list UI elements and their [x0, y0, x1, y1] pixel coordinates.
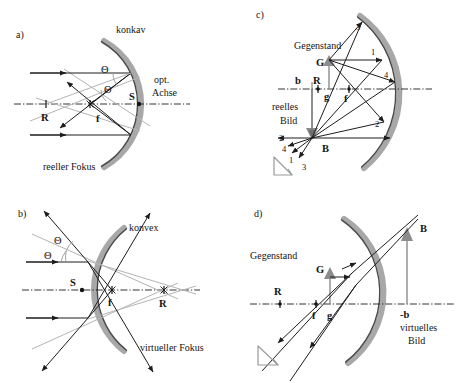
panel-d-dist-g: g: [327, 310, 333, 321]
panel-c-ray-num-mirror-0: 3: [356, 22, 360, 32]
panel-a-axis-label-2: Achse: [152, 87, 178, 98]
center-point-R: [316, 87, 320, 91]
panel-a-point-f: f: [96, 113, 100, 124]
panel-c-ray-num-mirror-3: 2: [375, 119, 379, 129]
focus-point-f: [314, 302, 318, 306]
panel-c-ray-num-image-1: 4: [282, 144, 287, 154]
panel-c-ray-num-image-0: 2: [279, 133, 283, 143]
focus-point-f: [347, 87, 351, 91]
vertex-point-S: [80, 288, 84, 292]
optics-figure: a) konkav opt. Achse reeller Fokus S f R…: [0, 0, 463, 383]
mirror-arc-concave: [342, 219, 384, 363]
panel-b-tag: b): [18, 208, 26, 220]
reflected-rays: [60, 73, 131, 135]
eye-icon: [258, 346, 278, 365]
panel-d-image-label-1: virtuelles: [400, 322, 437, 333]
panel-c-dist-b: b: [295, 75, 301, 86]
panel-c-point-R: R: [313, 75, 321, 86]
panel-b-angle-incident: Θ: [54, 235, 62, 246]
panel-c-ray-num-image-2: 1: [289, 155, 293, 165]
panel-c-image-label-1: reelles: [272, 101, 298, 112]
panel-c-ray-num-mirror-1: 1: [371, 47, 375, 57]
panel-d-point-G: G: [316, 264, 324, 275]
panel-a-tag: a): [16, 29, 24, 41]
panel-a-mirror-label: konkav: [116, 24, 145, 35]
panel-a-axis-label-1: opt.: [154, 74, 169, 85]
panel-c-ray-num-mirror-2: 4: [384, 70, 389, 80]
panel-c-point-B: B: [322, 143, 329, 154]
vertex-point-S: [137, 102, 141, 106]
panel-d-image-label-2: Bild: [408, 335, 425, 346]
center-point-R: [278, 302, 282, 306]
panel-d-virtual-image: d) Gegenstand virtuelles Bild G B R f g …: [232, 191, 463, 383]
panel-a-concave-mirror: a) konkav opt. Achse reeller Fokus S f R…: [0, 0, 232, 191]
panel-c-tag: c): [256, 9, 264, 21]
panel-c-object-label: Gegenstand: [294, 40, 341, 51]
image-arrowhead: [401, 227, 413, 241]
panel-a-focus-label: reeller Fokus: [43, 161, 96, 172]
panel-d-point-B: B: [420, 223, 427, 234]
image-distance-b: [309, 82, 316, 139]
panel-c-real-image: c) Gegenstand reelles Bild G B R f g b 3…: [232, 0, 463, 191]
panel-d-tag: d): [254, 208, 262, 220]
mirror-arc-convex: [94, 228, 126, 351]
panel-b-angle-reflected: Θ: [44, 250, 52, 261]
panel-b-focus-label: virtueller Fokus: [140, 342, 204, 353]
panel-a-point-S: S: [129, 91, 135, 102]
panel-a-angle-reflected: Θ: [104, 84, 112, 95]
panel-d-dist-b: -b: [400, 309, 409, 320]
virtual-ray-extensions: [352, 215, 418, 285]
panel-b-convex-mirror: b) konvex virtueller Fokus S f R Θ Θ: [0, 191, 232, 383]
mirror-arc-concave: [358, 16, 400, 168]
image-arrow-B: [401, 227, 413, 304]
panel-b-point-R: R: [159, 298, 167, 309]
panel-c-point-f: f: [344, 93, 348, 104]
panel-a-angle-incident: Θ: [101, 64, 109, 75]
panel-b-point-S: S: [70, 277, 76, 288]
panel-c-dist-g: g: [324, 91, 330, 102]
panel-d-object-label: Gegenstand: [250, 250, 297, 261]
mirror-arc-concave: [102, 41, 142, 167]
panel-d-point-R: R: [274, 286, 282, 297]
panel-c-image-label-2: Bild: [280, 115, 297, 126]
panel-b-point-f: f: [108, 297, 112, 308]
panel-d-point-f: f: [312, 310, 316, 321]
panel-c-point-G: G: [316, 57, 324, 68]
panel-a-point-R: R: [41, 112, 49, 123]
panel-b-mirror-label: konvex: [129, 222, 158, 233]
panel-c-ray-num-image-3: 3: [302, 162, 306, 172]
